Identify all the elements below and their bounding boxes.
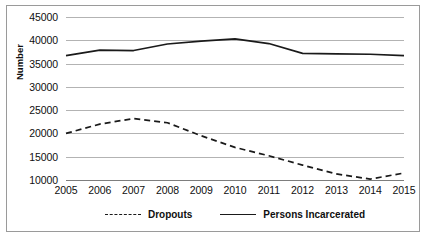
legend-swatch-solid-line-icon <box>220 214 256 215</box>
y-tick-label-25000: 25000 <box>29 104 58 116</box>
series-line-persons-incarcerated <box>66 39 404 56</box>
x-tick-label-2008: 2008 <box>156 184 179 196</box>
x-tick-label-2010: 2010 <box>224 184 247 196</box>
x-tick-label-2006: 2006 <box>88 184 111 196</box>
plot-area <box>66 17 404 180</box>
legend-swatch-dashed-line-icon <box>105 214 141 215</box>
y-axis-tick-labels: 1000015000200002500030000350004000045000 <box>0 17 62 180</box>
y-tick-label-40000: 40000 <box>29 34 58 46</box>
y-tick-label-35000: 35000 <box>29 58 58 70</box>
x-axis-tick-labels: 2005200620072008200920102011201220132014… <box>66 184 404 200</box>
line-chart-figure: Number 100001500020000250003000035000400… <box>0 0 427 247</box>
x-tick-label-2007: 2007 <box>122 184 145 196</box>
x-tick-label-2009: 2009 <box>190 184 213 196</box>
gridline-10000 <box>66 180 404 181</box>
legend-entry-persons-incarcerated[interactable]: Persons Incarcerated <box>220 209 365 220</box>
x-tick-label-2015: 2015 <box>393 184 416 196</box>
series-line-dropouts <box>66 119 404 180</box>
series-layer <box>66 17 404 180</box>
x-tick-label-2011: 2011 <box>258 184 280 196</box>
x-tick-label-2013: 2013 <box>325 184 348 196</box>
legend-entry-dropouts[interactable]: Dropouts <box>105 209 192 220</box>
x-tick-label-2005: 2005 <box>55 184 78 196</box>
legend-label: Persons Incarcerated <box>263 209 365 220</box>
y-tick-label-20000: 20000 <box>29 127 58 139</box>
y-tick-label-30000: 30000 <box>29 81 58 93</box>
y-tick-label-45000: 45000 <box>29 11 58 23</box>
legend-label: Dropouts <box>148 209 192 220</box>
y-tick-label-15000: 15000 <box>29 151 58 163</box>
x-tick-label-2012: 2012 <box>291 184 314 196</box>
chart-legend: DropoutsPersons Incarcerated <box>66 205 404 223</box>
x-tick-label-2014: 2014 <box>359 184 382 196</box>
